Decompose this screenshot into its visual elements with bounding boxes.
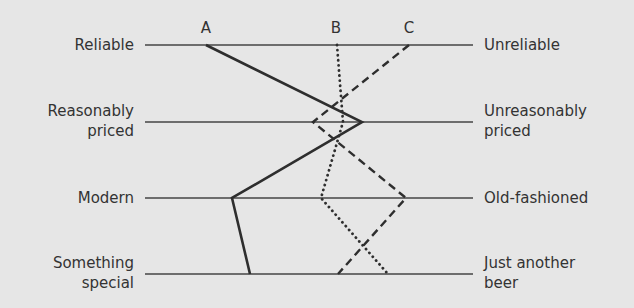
scale-right-label-unreliable: Unreliable [484, 35, 560, 55]
series-a-label: A [201, 19, 211, 37]
series-b-line [321, 45, 388, 274]
series-c-label: C [404, 19, 414, 37]
scale-left-label-something-special: Something special [53, 253, 134, 293]
scale-left-label-reliable: Reliable [75, 35, 134, 55]
scale-left-label-modern: Modern [78, 188, 134, 208]
series-b-label: B [331, 19, 341, 37]
semantic-differential-diagram: A B C Reliable Reasonably priced Modern … [0, 0, 634, 308]
scale-right-label-old-fashioned: Old-fashioned [484, 188, 588, 208]
series-c-line [313, 45, 409, 274]
series-a-line [206, 45, 362, 274]
scale-right-label-unreasonably-priced: Unreasonably priced [484, 101, 587, 141]
scale-lines [145, 45, 473, 274]
scale-left-label-reasonably-priced: Reasonably priced [48, 101, 134, 141]
scale-right-label-just-another-beer: Just another beer [484, 253, 575, 293]
